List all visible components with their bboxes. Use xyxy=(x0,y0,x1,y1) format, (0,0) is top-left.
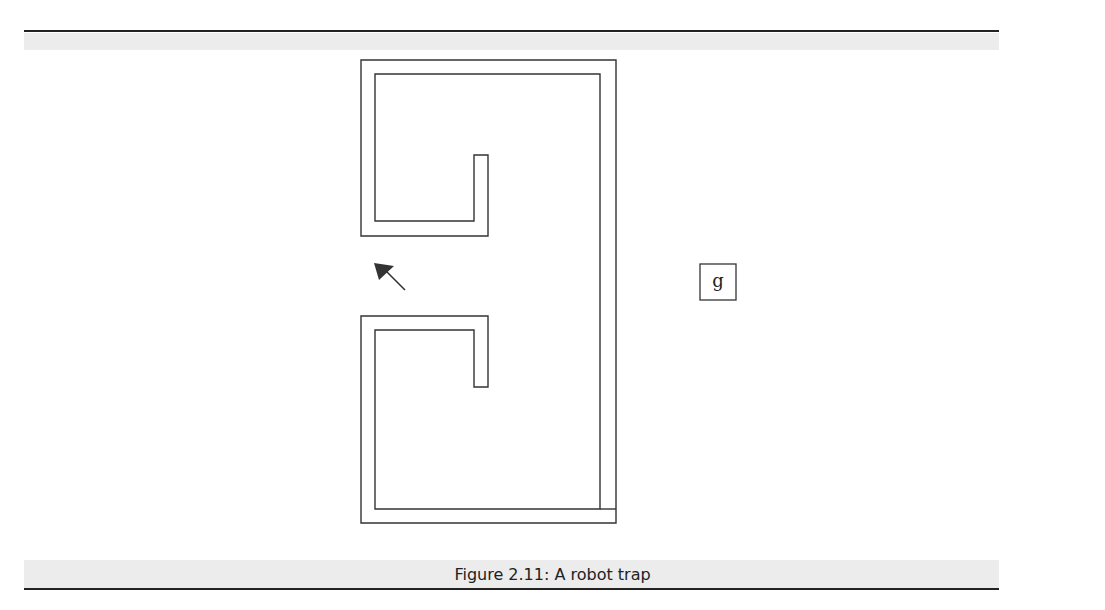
robot-trap-figure: g xyxy=(0,0,1105,610)
upper-wall-outer xyxy=(361,60,616,523)
figure-caption: Figure 2.11: A robot trap xyxy=(0,565,1105,584)
bottom-rule xyxy=(24,588,999,590)
robot-arrow-icon xyxy=(374,263,405,290)
goal-label: g xyxy=(712,270,724,291)
goal-marker: g xyxy=(700,264,736,300)
trap-walls xyxy=(361,60,616,523)
